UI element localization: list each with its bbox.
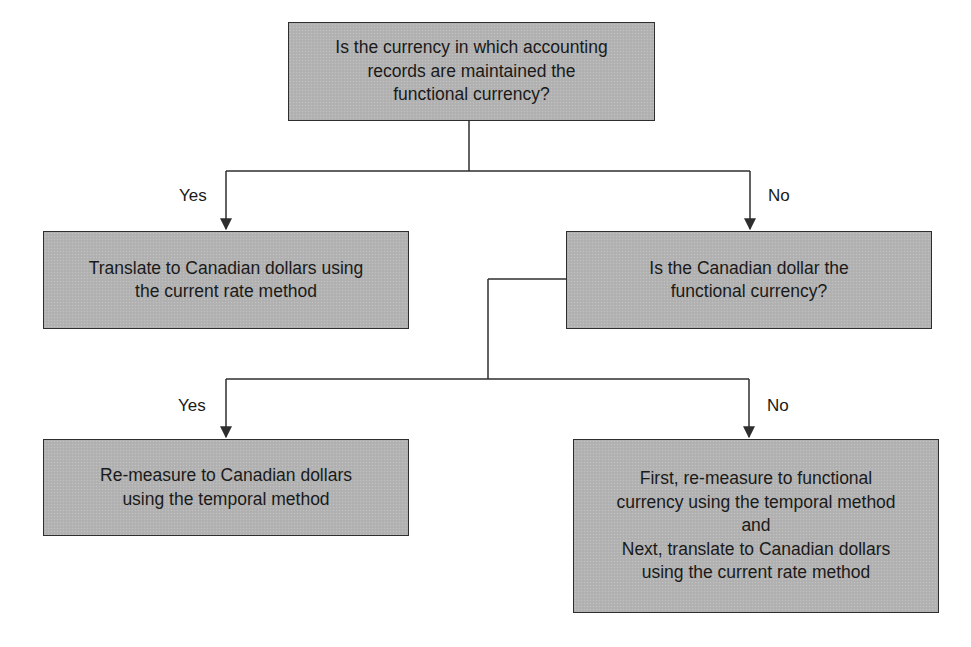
decision-box-functional-currency: Is the currency in which accounting reco… [288,22,655,121]
box-text-line: Re-measure to Canadian dollars [100,464,352,488]
box-text-line: functional currency? [393,83,550,107]
box-text-line: Is the Canadian dollar the [649,257,848,281]
box-text-line: Is the currency in which accounting [335,36,607,60]
box-text-line: First, re-measure to functional [640,467,872,491]
box-text-line: the current rate method [135,280,317,304]
outcome-box-temporal: Re-measure to Canadian dollars using the… [43,439,409,536]
box-text-line: Translate to Canadian dollars using [89,257,364,281]
edge-label-yes: Yes [179,186,207,206]
box-text-line: Next, translate to Canadian dollars [622,538,890,562]
box-text-line: using the current rate method [642,561,871,585]
edge-label-yes: Yes [178,396,206,416]
flowchart: Is the currency in which accounting reco… [0,0,971,647]
edge-label-no: No [767,396,789,416]
outcome-box-current-rate: Translate to Canadian dollars using the … [43,231,409,329]
decision-box-canadian-dollar: Is the Canadian dollar the functional cu… [566,231,932,329]
box-text-line: functional currency? [671,280,828,304]
connector-q1 [226,120,750,229]
outcome-box-temporal-then-current-rate: First, re-measure to functional currency… [573,439,939,613]
edge-label-no: No [768,186,790,206]
box-text-line: using the temporal method [122,488,329,512]
box-text-line: currency using the temporal method [616,491,895,515]
box-text-line: records are maintained the [367,60,575,84]
box-text-line: and [741,514,770,538]
